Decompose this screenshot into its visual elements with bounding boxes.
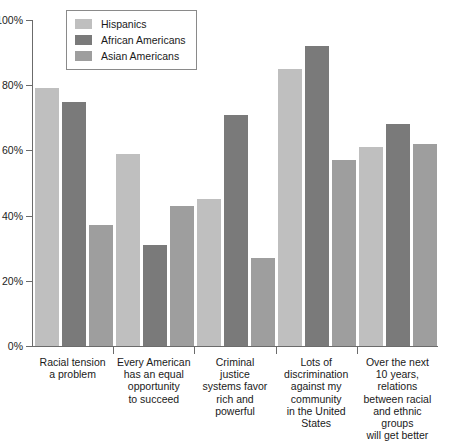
category-separator (276, 347, 277, 354)
bar-chart: 0%20%40%60%80%100% Racial tension a prob… (0, 0, 450, 441)
legend-item: Asian Americans (75, 48, 186, 64)
y-axis-tick (26, 346, 33, 347)
bar (170, 206, 194, 346)
legend-item: African Americans (75, 32, 186, 48)
bar (62, 102, 86, 347)
y-axis-label: 0% (0, 341, 23, 352)
x-axis-category-label: Every American has an equal opportunity … (113, 356, 194, 405)
bar (305, 46, 329, 346)
bar (143, 245, 167, 346)
legend-label: African Americans (101, 34, 186, 46)
bar (332, 160, 356, 346)
legend-swatch (75, 35, 92, 45)
legend-item: Hispanics (75, 16, 186, 32)
y-axis-label: 40% (0, 211, 23, 222)
x-axis-category-label: Over the next 10 years, relations betwee… (357, 356, 438, 441)
category-separator (113, 347, 114, 354)
x-axis-line (32, 346, 438, 347)
bar (35, 88, 59, 346)
bar-group (278, 20, 356, 346)
bar (197, 199, 221, 346)
bar-group (197, 20, 275, 346)
bar (89, 225, 113, 346)
y-axis-label: 60% (0, 145, 23, 156)
bar (359, 147, 383, 346)
x-axis-category-label: Criminal justice systems favor rich and … (194, 356, 275, 417)
legend-label: Asian Americans (101, 50, 179, 62)
bar (116, 154, 140, 346)
bar (224, 115, 248, 346)
x-axis-category-label: Lots of discrimination against my commun… (276, 356, 357, 429)
y-axis-label: 20% (0, 276, 23, 287)
legend-label: Hispanics (101, 18, 147, 30)
y-axis-label: 80% (0, 80, 23, 91)
x-axis-category-label: Racial tension a problem (32, 356, 113, 380)
chart-legend: HispanicsAfrican AmericansAsian American… (66, 10, 197, 70)
bar-group (359, 20, 437, 346)
bar (278, 69, 302, 346)
bar (386, 124, 410, 346)
legend-swatch (75, 51, 92, 61)
bar (413, 144, 437, 346)
category-separator (194, 347, 195, 354)
legend-swatch (75, 19, 92, 29)
bar (251, 258, 275, 346)
category-separator (357, 347, 358, 354)
y-axis-label: 100% (0, 15, 23, 26)
